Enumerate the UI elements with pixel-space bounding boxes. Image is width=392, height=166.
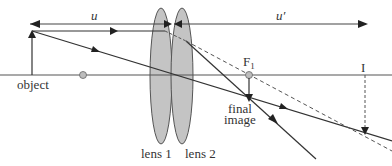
arrow-head-u-left-icon <box>30 20 40 28</box>
lens-2 <box>171 8 193 144</box>
ray-1-arrow-icon <box>110 27 118 35</box>
label-F1: F1 <box>243 54 255 71</box>
ray-diagram: u u′ object F1 I final image lens 1 lens… <box>0 0 392 166</box>
ray-1-refracted <box>186 41 316 159</box>
ray-2-arrow-2-icon <box>279 103 288 109</box>
focal-point-left-dot <box>80 72 87 79</box>
label-F1-sub: 1 <box>250 61 255 71</box>
label-final-image-line2: image <box>224 112 256 127</box>
ray-1-arrow-2-icon <box>268 114 278 124</box>
label-u-prime: u′ <box>276 8 286 23</box>
label-lens1: lens 1 <box>141 146 172 161</box>
label-object: object <box>17 77 49 92</box>
ray-2-arrow-icon <box>91 46 100 52</box>
focal-point-F1-dot <box>246 72 253 79</box>
arrow-head-u-prime-right-icon <box>358 20 368 28</box>
ray-2-chief <box>32 31 392 141</box>
label-F1-main: F <box>243 54 250 69</box>
lens-1 <box>150 8 172 144</box>
label-I: I <box>361 60 365 75</box>
label-u: u <box>91 8 98 23</box>
label-lens2: lens 2 <box>185 146 216 161</box>
